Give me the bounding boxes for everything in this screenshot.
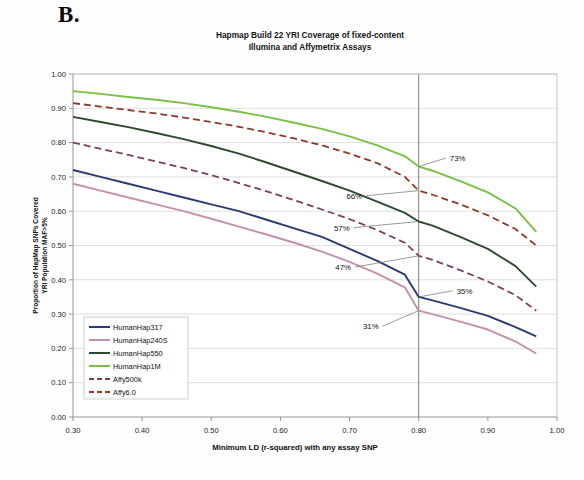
figure-panel: B. Hapmap Build 22 YRI Coverage of fixed… (0, 0, 584, 480)
y-tick-label: 0.00 (51, 413, 66, 422)
x-axis-title: Minimum LD (r-squared) with any assay SN… (212, 443, 378, 452)
x-tick-label: 0.30 (66, 426, 81, 435)
x-tick-label: 0.90 (480, 426, 495, 435)
legend-label-humanhap550: HumanHap550 (113, 349, 163, 358)
x-tick-label: 1.00 (550, 426, 565, 435)
annotation-label-35pct: 35% (457, 287, 473, 296)
legend-label-humanhap240s: HumanHap240S (113, 336, 168, 345)
y-tick-label: 0.90 (51, 104, 66, 113)
y-axis-title-line-2: YRI Population MAF>5% (41, 217, 49, 294)
x-tick-label: 0.50 (204, 426, 219, 435)
x-tick-label: 0.70 (342, 426, 357, 435)
y-tick-label: 0.20 (51, 344, 66, 353)
annotation-label-47pct: 47% (335, 263, 351, 272)
line-chart: 0.000.100.200.300.400.500.600.700.800.90… (0, 0, 584, 480)
annotation-label-57pct: 57% (334, 224, 350, 233)
annotation-label-73pct: 73% (450, 154, 466, 163)
y-tick-label: 0.60 (51, 207, 66, 216)
annotation-label-66pct: 66% (346, 192, 362, 201)
annotation-label-31pct: 31% (363, 322, 379, 331)
legend-label-affy500k: Affy500k (113, 375, 142, 384)
y-tick-label: 0.50 (51, 241, 66, 250)
plot-area: 0.000.100.200.300.400.500.600.700.800.90… (0, 0, 584, 480)
legend-label-humanhap1m: HumanHap1M (113, 362, 161, 371)
y-tick-label: 0.30 (51, 310, 66, 319)
x-tick-label: 0.60 (273, 426, 288, 435)
x-tick-label: 0.80 (411, 426, 426, 435)
y-tick-label: 0.40 (51, 276, 66, 285)
y-tick-label: 0.10 (51, 378, 66, 387)
x-tick-label: 0.40 (135, 426, 150, 435)
legend-label-affy6-0: Affy6.0 (113, 388, 136, 397)
y-tick-label: 0.70 (51, 173, 66, 182)
y-tick-label: 1.00 (51, 70, 66, 79)
y-tick-label: 0.80 (51, 138, 66, 147)
y-axis-title-line-1: Proportion of HapMap SNPs Covered (32, 197, 40, 314)
legend-label-humanhap317: HumanHap317 (113, 323, 163, 332)
